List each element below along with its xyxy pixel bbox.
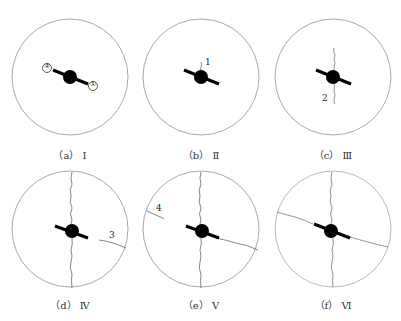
anchor-hole xyxy=(326,70,340,84)
caption-f: （f） Ⅵ xyxy=(273,297,393,312)
anchor-hole xyxy=(63,70,77,84)
crack-3 xyxy=(99,240,126,248)
panel-b xyxy=(143,19,259,135)
panel-c xyxy=(275,19,391,135)
marker-1-label: ① xyxy=(90,81,96,88)
anchor-hole xyxy=(194,70,208,84)
panel-a xyxy=(12,19,128,135)
caption-e: （e） Ⅴ xyxy=(141,297,261,312)
crack-label-1: 1 xyxy=(205,58,211,67)
crack-left xyxy=(277,212,313,224)
anchor-hole xyxy=(195,224,209,238)
caption-c: （c） Ⅲ xyxy=(273,147,393,162)
crack-1 xyxy=(201,62,202,71)
crack-label-3: 3 xyxy=(109,231,115,240)
crack-label-4: 4 xyxy=(156,204,162,213)
crack-evolution-figure: ② ① 1 2 3 4 （a） Ⅰ （b） Ⅱ （c） Ⅲ （d） Ⅳ （e） … xyxy=(0,0,401,321)
caption-b: （b） Ⅱ xyxy=(141,147,261,162)
anchor-hole xyxy=(65,224,79,238)
marker-2-label: ② xyxy=(44,63,50,70)
crack-right xyxy=(350,237,388,247)
panel-e xyxy=(143,171,259,288)
crack-main-horizontal xyxy=(216,238,258,250)
caption-d: （d） Ⅳ xyxy=(10,297,130,312)
panel-f xyxy=(275,171,391,287)
caption-a: （a） Ⅰ xyxy=(10,147,130,162)
crack-label-2: 2 xyxy=(322,94,328,103)
anchor-hole xyxy=(324,224,338,238)
